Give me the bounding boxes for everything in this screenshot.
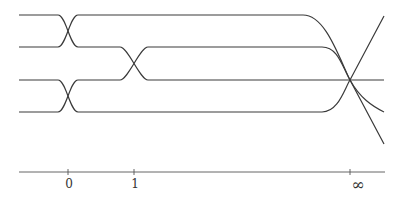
strand-diagram: 0 1 ∞ bbox=[0, 0, 404, 202]
tick-label-0: 0 bbox=[65, 177, 73, 191]
strand-3 bbox=[19, 16, 384, 112]
strands bbox=[19, 15, 384, 144]
axis: 0 1 ∞ bbox=[19, 169, 385, 194]
tick-label-infinity: ∞ bbox=[351, 175, 364, 194]
tick-label-1: 1 bbox=[131, 177, 139, 191]
